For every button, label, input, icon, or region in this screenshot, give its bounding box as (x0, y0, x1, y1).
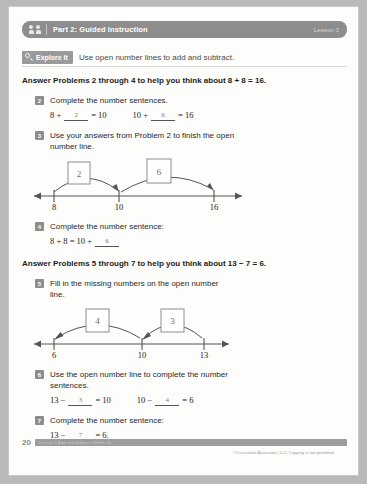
problem-number: 6 (35, 370, 44, 379)
axis-arrow-right (235, 193, 242, 200)
number-sentences: 13 − 3 = 10 10 − 4 = 6 (50, 395, 230, 406)
problem-text: Use the open number line to complete the… (50, 369, 230, 391)
answer-blank[interactable]: 6 (151, 111, 175, 121)
sentence-right: = 10 (91, 110, 106, 121)
lesson-label: Lesson 3 (314, 27, 339, 33)
jump-label: 2 (77, 169, 82, 179)
page-content: Part 2: Guided Instruction Lesson 3 Expl… (22, 21, 347, 463)
section-prompt-1: Answer Problems 2 through 4 to help you … (22, 75, 347, 86)
tick-label: 16 (210, 202, 219, 212)
problem-2: 2 Complete the number sentences. 8 + 2 =… (22, 95, 347, 121)
part-title: Part 2: Guided Instruction (53, 25, 148, 34)
copyright-notice: ©Curriculum Associates, LLC Copying is n… (22, 450, 347, 455)
jump-arrow-head (54, 332, 64, 340)
number-sentences: 8 + 2 = 10 10 + 6 = 16 (50, 110, 193, 121)
sentence-right: = 10 (95, 395, 110, 406)
axis-arrow-left (34, 341, 41, 348)
sentence-left: 13 − (50, 395, 65, 406)
problem-text: Complete the number sentence: (50, 221, 164, 232)
problem-body: Complete the number sentence: 8 + 8 = 10… (50, 221, 164, 247)
problem-text: Complete the number sentences. (50, 95, 193, 106)
problem-number: 7 (35, 416, 44, 425)
explore-it-banner: Explore It Use open number lines to add … (22, 50, 347, 64)
section-prompt-2: Answer Problems 5 through 7 to help you … (22, 258, 347, 269)
numberline-svg-2: 4 3 6 10 13 (24, 304, 239, 360)
answer-blank[interactable]: 4 (155, 396, 179, 406)
page-footer: 20 Lesson 3 Add and Subtract Within 20 ©… (22, 438, 347, 455)
footer-row: 20 Lesson 3 Add and Subtract Within 20 (22, 438, 347, 447)
part-header-bar: Part 2: Guided Instruction Lesson 3 (22, 21, 347, 38)
sentence-left: 8 + 8 = 10 + (50, 236, 92, 247)
problem-text: Fill in the missing numbers on the open … (50, 278, 235, 300)
footer-bar-text: Lesson 3 Add and Subtract Within 20 (39, 440, 111, 445)
jump-label: 3 (170, 316, 175, 326)
numberline-svg-1: 2 6 8 10 16 (24, 156, 254, 212)
explore-underline (22, 66, 347, 67)
problem-number: 5 (35, 279, 44, 288)
explore-it-label: Explore It (36, 54, 68, 61)
sentence-left: 10 + (133, 110, 148, 121)
number-sentence: 8 + 2 = 10 (50, 110, 107, 121)
problem-body: Complete the number sentences. 8 + 2 = 1… (50, 95, 193, 121)
tick-label: 10 (115, 202, 124, 212)
answer-blank[interactable]: 3 (68, 396, 92, 406)
footer-bar: Lesson 3 Add and Subtract Within 20 (35, 439, 347, 446)
sentence-left: 10 − (137, 395, 152, 406)
sentence-left: 8 + (50, 110, 61, 121)
axis-arrow-right (222, 341, 229, 348)
tick-label: 13 (200, 350, 209, 360)
answer-blank[interactable]: 2 (64, 111, 88, 121)
number-sentence: 10 + 6 = 16 (133, 110, 194, 121)
problem-4: 4 Complete the number sentence: 8 + 8 = … (22, 221, 347, 247)
open-number-line-2: 4 3 6 10 13 (24, 304, 347, 360)
explore-it-description: Use open number lines to add and subtrac… (79, 53, 234, 62)
answer-blank[interactable]: 6 (95, 237, 119, 247)
problem-body: Use the open number line to complete the… (50, 369, 230, 406)
problem-6: 6 Use the open number line to complete t… (22, 369, 347, 406)
people-icon (28, 24, 42, 35)
jump-label: 6 (157, 167, 162, 177)
tick-label: 8 (52, 202, 56, 212)
sentence-right: = 6 (182, 395, 193, 406)
problem-number: 3 (35, 131, 44, 140)
explore-it-tab: Explore It (22, 51, 73, 64)
open-number-line-1: 2 6 8 10 16 (24, 156, 347, 212)
problem-text: Use your answers from Problem 2 to finis… (50, 130, 250, 152)
problem-3: 3 Use your answers from Problem 2 to fin… (22, 130, 347, 152)
page-number: 20 (22, 438, 31, 447)
problem-5: 5 Fill in the missing numbers on the ope… (22, 278, 347, 300)
tick-label: 10 (138, 350, 147, 360)
number-sentence: 8 + 8 = 10 + 6 (50, 236, 119, 247)
number-sentence: 10 − 4 = 6 (137, 395, 194, 406)
axis-arrow-left (34, 193, 41, 200)
jump-label: 4 (95, 316, 100, 326)
problem-text: Complete the number sentence: (50, 415, 164, 426)
header-divider (46, 24, 47, 35)
problem-number: 4 (35, 222, 44, 231)
worksheet-page: Part 2: Guided Instruction Lesson 3 Expl… (8, 6, 359, 476)
problem-number: 2 (35, 96, 44, 105)
problem-body: Fill in the missing numbers on the open … (50, 278, 235, 300)
magnifier-icon (25, 53, 33, 61)
number-sentences: 8 + 8 = 10 + 6 (50, 236, 164, 247)
number-sentence: 13 − 3 = 10 (50, 395, 111, 406)
tick-label: 6 (52, 350, 56, 360)
problem-body: Use your answers from Problem 2 to finis… (50, 130, 250, 152)
sentence-right: = 16 (178, 110, 193, 121)
